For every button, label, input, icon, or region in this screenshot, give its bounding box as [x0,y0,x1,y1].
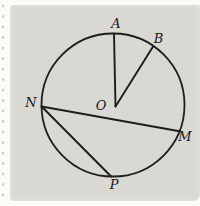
radius-ob-line [116,46,154,107]
label-a: A [110,16,120,31]
label-n: N [24,95,37,110]
scanned-page: A B N O M P [0,0,200,206]
label-b: B [153,31,164,46]
label-o: O [96,98,107,113]
label-p: P [109,177,119,192]
label-m: M [177,129,192,144]
circle-diagram: A B N O M P [0,0,200,206]
radius-oa-line [114,34,116,107]
circle-outline [42,34,185,177]
